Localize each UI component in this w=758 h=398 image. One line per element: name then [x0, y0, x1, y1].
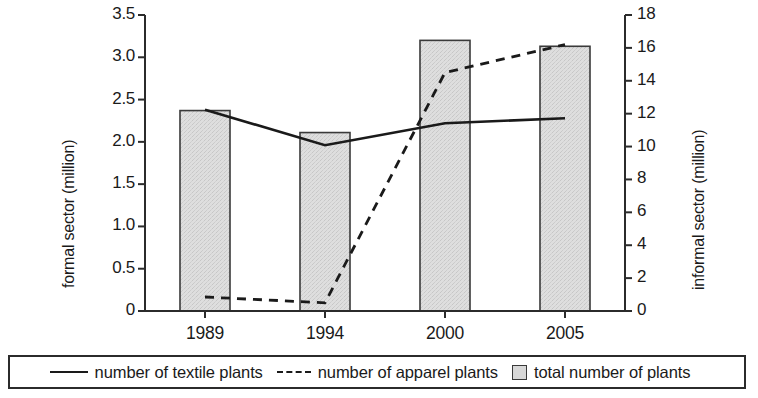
dashed-line-icon [277, 371, 311, 373]
right-axis-title: informal sector (million) [690, 130, 708, 290]
legend-item-total-plants: total number of plants [512, 363, 704, 382]
bar-1994 [300, 133, 350, 311]
right-tick-12: 12 [637, 103, 677, 123]
legend-label-apparel-plants: number of apparel plants [318, 363, 498, 382]
left-tick-0: 0 [80, 300, 135, 320]
left-tick-2.0: 2.0 [80, 131, 135, 151]
left-tick-3.5: 3.5 [80, 4, 135, 24]
legend-label-textile-plants: number of textile plants [95, 363, 263, 382]
plot-area: 00.51.01.52.02.53.03.5 024681012141618 1… [0, 0, 758, 345]
chart-legend: number of textile plants number of appar… [8, 355, 746, 389]
left-tick-1.5: 1.5 [80, 173, 135, 193]
right-tick-16: 16 [637, 37, 677, 57]
right-tick-2: 2 [637, 267, 677, 287]
right-tick-10: 10 [637, 136, 677, 156]
left-axis-title: formal sector (million) [60, 140, 78, 288]
left-tick-1.0: 1.0 [80, 215, 135, 235]
x-tick-1989: 1989 [160, 323, 250, 344]
bar-1989 [180, 111, 230, 311]
x-tick-2000: 2000 [400, 323, 490, 344]
left-tick-0.5: 0.5 [80, 258, 135, 278]
solid-line-icon [50, 371, 88, 373]
chart-figure: 00.51.01.52.02.53.03.5 024681012141618 1… [0, 0, 758, 398]
right-tick-0: 0 [637, 300, 677, 320]
x-tick-1994: 1994 [280, 323, 370, 344]
legend-item-textile-plants: number of textile plants [50, 363, 277, 382]
bar-2000 [420, 40, 470, 311]
bar-2005 [540, 46, 590, 311]
right-tick-8: 8 [637, 168, 677, 188]
x-tick-2005: 2005 [520, 323, 610, 344]
left-tick-2.5: 2.5 [80, 89, 135, 109]
right-tick-18: 18 [637, 4, 677, 24]
right-tick-6: 6 [637, 201, 677, 221]
bars-group [180, 40, 590, 311]
right-tick-14: 14 [637, 70, 677, 90]
apparel-plants-line [205, 45, 565, 303]
legend-item-apparel-plants: number of apparel plants [277, 363, 512, 382]
gray-square-swatch-icon [512, 365, 527, 380]
legend-label-total-plants: total number of plants [534, 363, 690, 382]
textile-plants-line [205, 110, 565, 146]
left-tick-3.0: 3.0 [80, 46, 135, 66]
right-tick-4: 4 [637, 234, 677, 254]
